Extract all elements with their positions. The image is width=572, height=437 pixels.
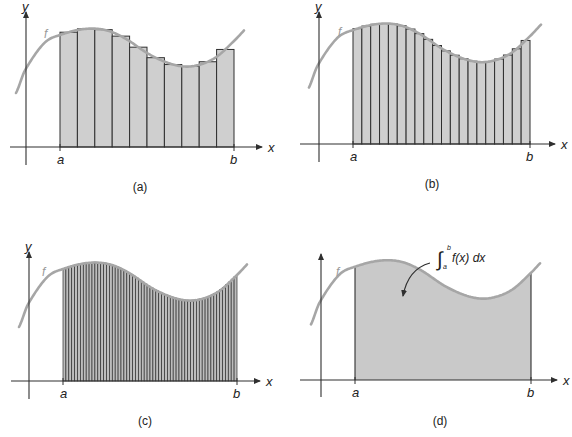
riemann-rectangle [72, 266, 75, 381]
riemann-rectangle [118, 268, 121, 381]
label-y: y [24, 239, 33, 254]
riemann-rectangle [194, 300, 197, 381]
riemann-rectangle [503, 55, 512, 144]
caption-c: (c) [138, 414, 152, 428]
riemann-rectangle [512, 49, 521, 144]
riemann-rectangle [80, 264, 83, 381]
riemann-rectangle [179, 300, 182, 381]
riemann-rectangle [170, 297, 173, 381]
label-b: b [527, 385, 534, 400]
riemann-rectangle [66, 268, 69, 381]
figure-canvas: abxyf abxyf abxyf abxf∫abf(x) dx [0, 0, 572, 437]
label-b: b [233, 386, 240, 401]
label-f: f [336, 265, 341, 279]
riemann-rectangle [424, 39, 433, 144]
riemann-rectangle [191, 301, 194, 381]
riemann-rectangle [182, 66, 199, 147]
riemann-rectangle [223, 287, 226, 381]
riemann-rectangle [63, 269, 66, 382]
caption-b: (b) [425, 177, 440, 191]
panel-d-definite-integral: abxf∫abf(x) dx [300, 244, 570, 400]
riemann-rectangle [112, 36, 129, 147]
riemann-rectangle [153, 289, 156, 381]
label-x: x [560, 137, 568, 152]
riemann-rectangle [225, 285, 228, 381]
riemann-rectangle [138, 280, 141, 381]
riemann-rectangle [450, 55, 459, 144]
riemann-rectangle [202, 298, 205, 381]
riemann-rectangle [486, 61, 495, 144]
riemann-rectangle [442, 51, 451, 144]
riemann-rectangle [121, 269, 124, 381]
riemann-rectangle [86, 263, 89, 381]
label-a: a [57, 152, 64, 167]
riemann-rectangle [78, 264, 81, 381]
riemann-rectangle [217, 292, 220, 381]
riemann-rectangle [234, 276, 237, 381]
riemann-rectangle [130, 47, 147, 147]
riemann-rectangle [433, 46, 442, 144]
riemann-rectangle [107, 264, 110, 381]
riemann-rectangle [133, 276, 136, 381]
riemann-rectangle [75, 265, 78, 381]
label-x: x [562, 373, 570, 388]
label-a: a [60, 386, 67, 401]
riemann-rectangle [228, 282, 231, 381]
riemann-rectangle [112, 266, 115, 381]
riemann-rectangle [159, 292, 162, 381]
riemann-rectangle [124, 271, 127, 381]
riemann-rectangle [495, 59, 504, 144]
riemann-rectangle [415, 34, 424, 144]
riemann-rectangle [167, 296, 170, 381]
riemann-rectangle [95, 263, 98, 381]
riemann-rectangle [205, 297, 208, 381]
riemann-rectangle [127, 272, 130, 381]
riemann-rectangle [208, 296, 211, 381]
riemann-rectangle [98, 263, 101, 381]
riemann-rectangle [231, 279, 234, 381]
riemann-rectangle [521, 40, 530, 144]
label-b: b [230, 152, 237, 167]
panel-a-riemann-10: abxyf [10, 0, 275, 167]
label-f: f [338, 25, 343, 39]
riemann-rectangle [130, 274, 133, 381]
riemann-rectangle [196, 300, 199, 381]
riemann-rectangle [136, 278, 139, 381]
riemann-rectangle [115, 267, 118, 381]
integral-upper-limit: b [447, 244, 451, 251]
riemann-rectangle [147, 286, 150, 381]
riemann-rectangle [211, 295, 214, 381]
riemann-rectangle [60, 32, 77, 147]
panel-b-riemann-20: abxyf [300, 0, 568, 164]
label-y: y [314, 0, 323, 14]
riemann-rectangle [156, 291, 159, 381]
label-b: b [526, 149, 533, 164]
caption-d: (d) [433, 414, 448, 428]
label-x: x [265, 374, 273, 389]
riemann-rectangle [176, 299, 179, 381]
label-a: a [350, 149, 357, 164]
caption-a: (a) [133, 180, 148, 194]
riemann-rectangle [141, 282, 144, 381]
riemann-rectangle [104, 263, 107, 381]
riemann-rectangle [77, 29, 94, 147]
label-a: a [352, 385, 359, 400]
riemann-rectangle [468, 61, 477, 144]
riemann-rectangle [477, 62, 486, 144]
riemann-rectangle [380, 24, 389, 144]
riemann-rectangle [199, 62, 216, 147]
riemann-rectangle [101, 263, 104, 381]
label-y: y [21, 0, 30, 14]
integral-area [355, 260, 531, 380]
riemann-rectangle [353, 29, 362, 144]
riemann-rectangle [92, 263, 95, 381]
riemann-rectangle [109, 265, 112, 381]
riemann-rectangle [371, 24, 380, 144]
panel-c-riemann-many: abxyf [11, 239, 273, 401]
figure-riemann-sums: abxyf abxyf abxyf abxf∫abf(x) dx (a) (b)… [0, 0, 572, 437]
label-x: x [267, 140, 275, 155]
riemann-rectangle [459, 59, 468, 144]
riemann-rectangle [199, 299, 202, 381]
riemann-rectangle [406, 29, 415, 144]
riemann-rectangle [89, 263, 92, 381]
